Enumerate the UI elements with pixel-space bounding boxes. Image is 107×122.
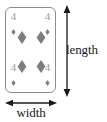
diamond-pip-icon: [36, 30, 46, 48]
playing-card: 4 4 4 4: [5, 7, 56, 93]
card-rank-top-right: 4: [42, 11, 53, 21]
diamond-pip-icon: [36, 59, 46, 77]
diamond-pip-icon: [17, 59, 27, 77]
width-label: width: [4, 106, 58, 120]
diamond-pip-icon: [17, 30, 27, 48]
playing-card-dimensions-figure: 4 4 4 4: [0, 0, 107, 122]
card-rank-top-left: 4: [8, 11, 19, 21]
length-label: length: [66, 43, 98, 57]
